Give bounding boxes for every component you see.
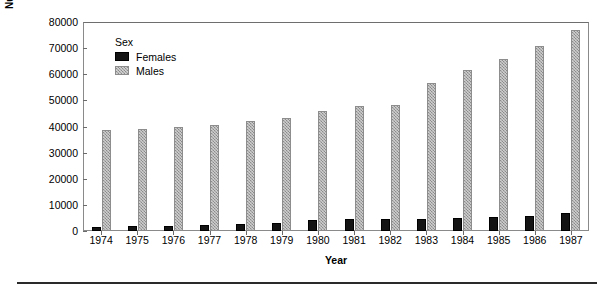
x-axis-tick-label: 1978 <box>228 234 264 246</box>
y-axis-title: Number of Adults Charged <box>3 0 17 50</box>
y-axis-tick-mark <box>83 231 87 232</box>
top-rule <box>17 0 597 1</box>
legend-title: Sex <box>115 36 219 48</box>
bottom-rule <box>17 282 597 284</box>
x-axis-title: Year <box>83 254 589 266</box>
bar-chart-figure: Number of Adults Charged 010000200003000… <box>0 0 608 291</box>
x-axis-tick-mark <box>318 231 319 235</box>
x-axis-tick-labels: 1974197519761977197819791980198119821983… <box>83 234 589 252</box>
x-axis-tick-mark <box>210 231 211 235</box>
bar-females <box>345 219 354 231</box>
x-axis-tick-mark <box>101 231 102 235</box>
bar-males <box>246 121 255 231</box>
bar-females <box>561 213 570 231</box>
x-axis-tick-label: 1982 <box>372 234 408 246</box>
y-axis-tick-mark <box>83 48 87 49</box>
y-axis-tick-label: 0 <box>32 226 78 236</box>
x-axis-tick-mark <box>426 231 427 235</box>
x-axis-tick-label: 1979 <box>264 234 300 246</box>
bar-males <box>391 105 400 231</box>
bar-females <box>417 219 426 232</box>
legend-swatch-females-icon <box>115 52 129 61</box>
bar-males <box>318 111 327 231</box>
x-axis-tick-label: 1987 <box>553 234 589 246</box>
y-axis-tick-label: 30000 <box>32 148 78 158</box>
bar-males <box>282 118 291 231</box>
legend-label-males: Males <box>136 65 164 77</box>
bar-females <box>489 217 498 231</box>
x-axis-tick-mark <box>571 231 572 235</box>
x-axis-tick-label: 1976 <box>155 234 191 246</box>
x-axis-tick-mark <box>137 231 138 235</box>
y-axis-tick-label: 80000 <box>32 17 78 27</box>
bar-females <box>453 218 462 231</box>
y-axis-tick-label: 60000 <box>32 69 78 79</box>
legend-label-females: Females <box>136 51 176 63</box>
x-axis-tick-label: 1983 <box>408 234 444 246</box>
x-axis-tick-mark <box>535 231 536 235</box>
y-axis-tick-mark <box>83 179 87 180</box>
bar-females <box>128 226 137 231</box>
bar-males <box>571 30 580 231</box>
x-axis-tick-label: 1986 <box>517 234 553 246</box>
bar-females <box>92 227 101 231</box>
y-axis-tick-mark <box>83 127 87 128</box>
legend-item-females: Females <box>115 50 219 63</box>
legend-item-males: Males <box>115 64 219 77</box>
y-axis-tick-label: 40000 <box>32 122 78 132</box>
x-axis-tick-mark <box>173 231 174 235</box>
bar-males <box>427 83 436 231</box>
x-axis-tick-label: 1975 <box>119 234 155 246</box>
x-axis-tick-mark <box>354 231 355 235</box>
bar-females <box>272 223 281 231</box>
x-axis-tick-mark <box>390 231 391 235</box>
y-axis-tick-label: 20000 <box>32 174 78 184</box>
y-axis-tick-mark <box>83 205 87 206</box>
x-axis-tick-label: 1980 <box>300 234 336 246</box>
bar-males <box>210 125 219 231</box>
bar-females <box>236 224 245 231</box>
bar-females <box>525 216 534 231</box>
y-axis-tick-mark <box>83 153 87 154</box>
bar-females <box>308 220 317 231</box>
y-axis-tick-label: 50000 <box>32 95 78 105</box>
x-axis-tick-label: 1984 <box>445 234 481 246</box>
y-axis-tick-mark <box>83 100 87 101</box>
bar-males <box>499 59 508 231</box>
bar-females <box>164 226 173 231</box>
x-axis-tick-mark <box>463 231 464 235</box>
x-axis-tick-label: 1977 <box>192 234 228 246</box>
bar-females <box>200 225 209 231</box>
legend: Sex Females Males <box>115 36 219 78</box>
y-axis-tick-label: 70000 <box>32 43 78 53</box>
bar-males <box>355 106 364 231</box>
x-axis-tick-mark <box>246 231 247 235</box>
bar-males <box>102 130 111 231</box>
y-axis-tick-mark <box>83 74 87 75</box>
x-axis-tick-mark <box>282 231 283 235</box>
bar-males <box>174 127 183 231</box>
bar-males <box>535 46 544 232</box>
x-axis-tick-label: 1985 <box>481 234 517 246</box>
x-axis-tick-label: 1981 <box>336 234 372 246</box>
y-axis-tick-label: 10000 <box>32 200 78 210</box>
x-axis-tick-label: 1974 <box>83 234 119 246</box>
y-axis-tick-labels: 0100002000030000400005000060000700008000… <box>26 0 78 291</box>
bar-males <box>138 129 147 231</box>
bar-females <box>381 219 390 232</box>
bar-males <box>463 70 472 231</box>
legend-swatch-males-icon <box>115 66 129 75</box>
x-axis-tick-mark <box>499 231 500 235</box>
